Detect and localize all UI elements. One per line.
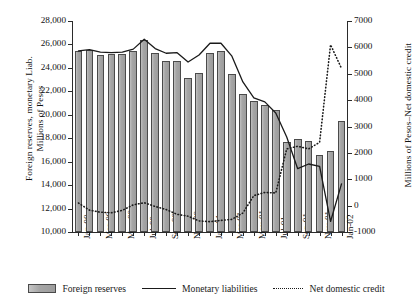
solid-line-icon — [142, 288, 176, 289]
y-tick-right — [347, 21, 352, 22]
y-tick-label-right: 2000 — [354, 147, 372, 157]
x-tick — [254, 232, 255, 236]
x-tick — [122, 232, 123, 236]
x-tick — [320, 232, 321, 236]
legend-item-net-domestic-credit: Net domestic credit — [273, 283, 384, 294]
y-tick-label-left: 26,000 — [41, 38, 66, 48]
x-tick — [144, 232, 145, 236]
x-tick — [232, 232, 233, 236]
y-tick-label-left: 18,000 — [41, 132, 66, 142]
y-tick-label-right: 0 — [354, 200, 359, 210]
legend-label-monetary-liabilities: Monetary liabilities — [182, 283, 257, 294]
legend-label-net-domestic-credit: Net domestic credit — [309, 283, 384, 294]
y-tick-label-left: 16,000 — [41, 156, 66, 166]
y-tick-right — [347, 47, 352, 48]
bar-swatch-icon — [28, 284, 56, 293]
x-tick — [100, 232, 101, 236]
plot-area: 10,00012,00014,00016,00018,00020,00022,0… — [73, 21, 347, 232]
y-tick-label-left: 22,000 — [41, 85, 66, 95]
y-axis-right-title: Millions of Pesos–Net domestic credit — [403, 20, 413, 210]
y-axis-left-title-line1: Foreign reserves, monetary Liab. — [24, 56, 34, 181]
x-tick — [276, 232, 277, 236]
y-tick-label-left: 10,000 — [41, 226, 66, 236]
x-tick — [210, 232, 211, 236]
dotted-line-icon — [273, 288, 303, 289]
y-tick-right — [347, 74, 352, 75]
x-tick — [78, 232, 79, 236]
y-tick-label-left: 14,000 — [41, 179, 66, 189]
line-monetary-liabilities — [78, 39, 341, 221]
y-tick-label-left: 20,000 — [41, 109, 66, 119]
y-tick-label-left: 24,000 — [41, 62, 66, 72]
y-tick-right — [347, 179, 352, 180]
line-net-domestic-credit — [78, 45, 341, 222]
y-tick-right — [347, 153, 352, 154]
x-tick — [298, 232, 299, 236]
x-tick — [342, 232, 343, 236]
legend-item-monetary-liabilities: Monetary liabilities — [142, 283, 257, 294]
legend-item-foreign-reserves: Foreign reserves — [28, 283, 126, 294]
y-tick-right — [347, 127, 352, 128]
chart-figure: Foreign reserves, monetary Liab. Million… — [0, 0, 413, 307]
y-tick-label-right: 6000 — [354, 41, 372, 51]
y-tick-label-right: -1000 — [354, 226, 375, 236]
y-tick-label-right: 4000 — [354, 94, 372, 104]
x-tick — [166, 232, 167, 236]
y-tick-label-right: 3000 — [354, 121, 372, 131]
chart-legend: Foreign reserves Monetary liabilities Ne… — [0, 283, 413, 294]
y-tick-right — [347, 100, 352, 101]
y-tick-left — [68, 232, 73, 233]
y-tick-label-left: 12,000 — [41, 203, 66, 213]
legend-label-foreign-reserves: Foreign reserves — [62, 283, 126, 294]
line-series-layer — [73, 21, 347, 232]
y-tick-label-right: 7000 — [354, 15, 372, 25]
y-tick-label-left: 28,000 — [41, 15, 66, 25]
y-tick-label-right: 1000 — [354, 173, 372, 183]
y-tick-label-right: 5000 — [354, 68, 372, 78]
x-tick — [188, 232, 189, 236]
y-tick-right — [347, 206, 352, 207]
